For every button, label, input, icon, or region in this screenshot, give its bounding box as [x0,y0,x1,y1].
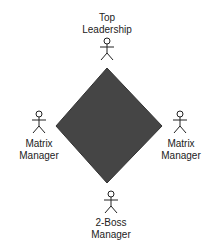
stick-figure-icon [173,111,187,133]
label-line: Manager [76,229,146,241]
top-leadership-label: Top Leadership [72,12,142,36]
matrix-diamond-diagram [0,0,212,247]
matrix-manager-right-label: Matrix Manager [146,138,212,162]
stick-figure-icon [32,111,46,133]
label-line: Leadership [72,24,142,36]
label-line: Top [72,12,142,24]
label-line: Matrix [4,138,74,150]
label-line: Manager [146,150,212,162]
matrix-manager-left-label: Matrix Manager [4,138,74,162]
stick-figure-icon [104,191,118,213]
label-line: Matrix [146,138,212,150]
two-boss-manager-label: 2-Boss Manager [76,217,146,241]
label-line: 2-Boss [76,217,146,229]
stick-figure-icon [100,38,114,60]
label-line: Manager [4,150,74,162]
diamond-shape [56,68,162,183]
